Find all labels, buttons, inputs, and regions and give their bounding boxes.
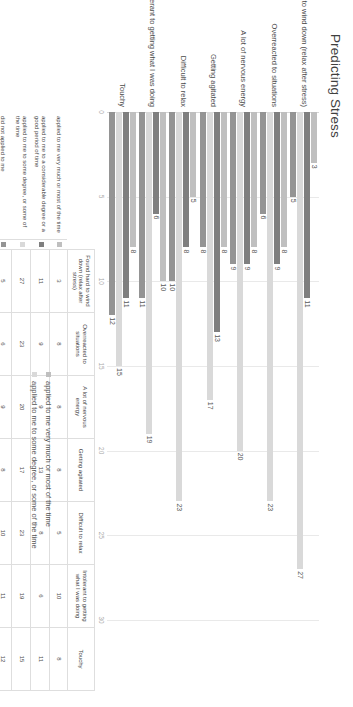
x-axis-tick-label: 25	[98, 532, 105, 539]
bar-group: Intolerant to getting what I was doing10…	[137, 112, 167, 620]
bar-row: 12	[109, 112, 115, 620]
bar	[160, 112, 166, 281]
bar	[176, 112, 182, 501]
category-label: Getting agitated	[209, 54, 218, 112]
table-cell: 8	[50, 313, 68, 376]
bar-value-label: 8	[250, 249, 257, 253]
table-row-label: applied to me very much or most of the t…	[50, 113, 68, 240]
x-axis-tick-label: 20	[98, 447, 105, 454]
legend-item[interactable]: applied to me to some degree, or some of…	[30, 372, 39, 549]
table-row-swatch	[50, 240, 68, 250]
chart-title: Predicting Stress	[328, 34, 343, 138]
table-row: applied to me to some degree, or some of…	[12, 113, 31, 691]
legend-swatch	[32, 372, 37, 377]
bar-value-label: 9	[243, 266, 250, 270]
bar-row: 11	[139, 112, 145, 620]
color-swatch	[20, 242, 25, 247]
bar-value-label: 11	[138, 300, 145, 307]
bar-value-label: 12	[108, 317, 115, 325]
x-axis-tick-label: 5	[98, 195, 105, 199]
table-cell: 10	[0, 502, 12, 565]
bar-value-label: 27	[297, 571, 304, 579]
table-cell: 23	[12, 313, 31, 376]
bar	[311, 112, 317, 163]
bar-value-label: 5	[190, 199, 197, 203]
bar-value-label: 5	[290, 199, 297, 203]
swatch-cell	[68, 240, 95, 250]
bar	[183, 112, 189, 247]
chart-legend: applied to me very much or most of the t…	[30, 372, 53, 549]
bar	[304, 112, 310, 298]
table-cell: 11	[31, 250, 50, 313]
bar-row: 13	[214, 112, 220, 620]
bar	[116, 112, 122, 366]
color-swatch	[39, 242, 44, 247]
bar-row: 8	[281, 112, 287, 620]
x-axis-tick-label: 15	[98, 362, 105, 369]
bar-row: 20	[237, 112, 243, 620]
bar-value-label: 8	[183, 249, 190, 253]
bar-value-label: 8	[199, 249, 206, 253]
grid-line	[107, 620, 319, 621]
bar-value-label: 11	[304, 300, 311, 307]
bar	[207, 112, 213, 400]
table-column-header: Intolerant to getting what I was doing	[68, 565, 95, 628]
bar	[200, 112, 206, 247]
bar-row: 15	[116, 112, 122, 620]
bar-group: Touchy8111512	[107, 112, 137, 620]
bar-row: 9	[230, 112, 236, 620]
bar-row: 9	[244, 112, 250, 620]
color-swatch	[57, 242, 62, 247]
bar-row: 9	[274, 112, 280, 620]
bar	[274, 112, 280, 264]
bar-value-label: 23	[267, 503, 274, 511]
bar-value-label: 6	[152, 216, 159, 220]
table-row-label: applied to me to a considerable degree o…	[31, 113, 50, 240]
bar-group: Getting agitated813178	[198, 112, 228, 620]
legend-label: applied to me very much or most of the t…	[44, 381, 53, 527]
category-label: Found hard to wind down (relax after str…	[299, 0, 308, 112]
table-cell: 9	[31, 313, 50, 376]
bar	[130, 112, 136, 247]
table-cell: 8	[50, 628, 68, 691]
bar-group: A lot of nervous energy89209	[228, 112, 258, 620]
category-label: Overreacted to situations	[269, 24, 278, 112]
bar	[214, 112, 220, 332]
bar-row: 23	[176, 112, 182, 620]
bar	[267, 112, 273, 501]
legend-label: applied to me to some degree, or some of…	[30, 381, 39, 549]
bar-value-label: 6	[260, 216, 267, 220]
table-column-header: Overreacted to situations	[68, 313, 95, 376]
rotated-page: Predicting Stress 051015202530Found hard…	[0, 0, 353, 707]
bar-row: 5	[190, 112, 196, 620]
bar-row: 10	[169, 112, 175, 620]
bar-row: 10	[160, 112, 166, 620]
table-cell: 19	[12, 565, 31, 628]
table-cell: 12	[0, 628, 12, 691]
table-cell: 27	[12, 250, 31, 313]
bar-row: 8	[200, 112, 206, 620]
category-label: Intolerant to getting what I was doing	[148, 0, 157, 112]
table-cell: 15	[12, 628, 31, 691]
color-swatch	[1, 242, 6, 247]
bar-row: 8	[130, 112, 136, 620]
table-column-header: A lot of nervous energy	[68, 376, 95, 439]
bar-row: 19	[146, 112, 152, 620]
bar-row: 6	[260, 112, 266, 620]
bar-value-label: 8	[129, 249, 136, 253]
bar-value-label: 19	[145, 436, 152, 444]
bar-row: 11	[123, 112, 129, 620]
bar-group: Difficult to relax582310	[168, 112, 198, 620]
bar-row: 8	[183, 112, 189, 620]
bar	[281, 112, 287, 247]
bar-value-label: 23	[176, 503, 183, 511]
bar	[109, 112, 115, 315]
chart-canvas: Predicting Stress 051015202530Found hard…	[0, 0, 353, 707]
bar-value-label: 10	[159, 283, 166, 291]
bar-value-label: 15	[115, 368, 122, 376]
table-row-swatch	[31, 240, 50, 250]
legend-swatch	[46, 372, 51, 377]
bar-group: Overreacted to situations89236	[258, 112, 288, 620]
legend-item[interactable]: applied to me very much or most of the t…	[44, 372, 53, 549]
table-cell: 11	[0, 565, 12, 628]
